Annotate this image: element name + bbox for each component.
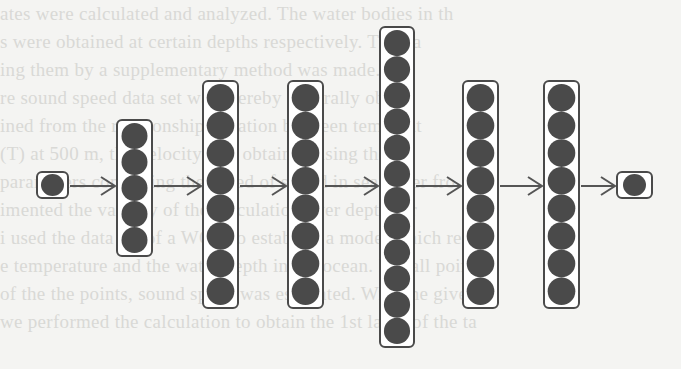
layer-hidden-3 [288, 81, 323, 308]
neuron-node [292, 84, 320, 112]
neuron-node [548, 139, 576, 167]
arrow-icon [581, 177, 615, 195]
neuron-node [384, 30, 410, 56]
neuron-node [623, 174, 646, 196]
neuron-node [548, 84, 576, 112]
neuron-node [384, 56, 410, 82]
neuron-node [467, 84, 495, 112]
neuron-node [467, 250, 495, 278]
neuron-node [207, 277, 235, 305]
neuron-node [467, 277, 495, 305]
neuron-node [41, 174, 64, 196]
neuron-node [467, 167, 495, 195]
neuron-node [548, 167, 576, 195]
layer-hidden-2 [203, 81, 238, 308]
neuron-node [384, 266, 410, 292]
arrow-icon [325, 177, 378, 195]
neuron-node [548, 277, 576, 305]
neuron-node [384, 161, 410, 187]
neuron-node [384, 239, 410, 265]
neuron-node [122, 149, 148, 175]
neuron-node [207, 167, 235, 195]
neuron-node [292, 277, 320, 305]
neuron-node [207, 195, 235, 223]
neuron-node [207, 222, 235, 250]
neuron-node [292, 112, 320, 140]
arrow-icon [70, 177, 115, 195]
neuron-node [548, 112, 576, 140]
neuron-node [384, 318, 410, 344]
neuron-node [207, 139, 235, 167]
arrow-icon [154, 177, 201, 195]
neuron-node [548, 195, 576, 223]
neuron-node [207, 112, 235, 140]
neuron-node [292, 222, 320, 250]
layer-input [37, 172, 68, 198]
neuron-node [384, 135, 410, 161]
neuron-node [384, 292, 410, 318]
neuron-node [292, 195, 320, 223]
layer-output [617, 172, 652, 198]
neuron-node [122, 123, 148, 149]
layer-hidden-6 [544, 81, 579, 308]
neuron-node [384, 82, 410, 108]
neuron-node [292, 139, 320, 167]
neuron-node [467, 195, 495, 223]
arrow-icon [240, 177, 286, 195]
neuron-node [292, 250, 320, 278]
neuron-node [122, 201, 148, 227]
neuron-node [548, 250, 576, 278]
layer-hidden-1 [117, 120, 152, 256]
neuron-node [122, 227, 148, 253]
neuron-node [207, 250, 235, 278]
layer-hidden-5 [463, 81, 498, 308]
neuron-node [467, 222, 495, 250]
arrow-icon [416, 177, 461, 195]
layer-hidden-4 [380, 27, 414, 347]
neuron-node [122, 175, 148, 201]
arrow-icon [500, 177, 542, 195]
neuron-node [207, 84, 235, 112]
neuron-node [384, 213, 410, 239]
neuron-node [548, 222, 576, 250]
neuron-node [467, 112, 495, 140]
neural-network-diagram [0, 0, 681, 369]
neuron-node [292, 167, 320, 195]
neuron-node [384, 109, 410, 135]
neuron-node [467, 139, 495, 167]
neuron-node [384, 187, 410, 213]
